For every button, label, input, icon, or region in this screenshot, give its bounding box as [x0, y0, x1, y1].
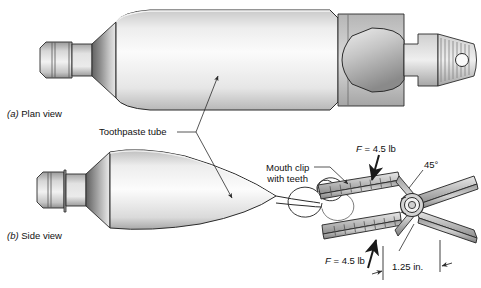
force-arrow-bottom	[368, 240, 376, 268]
label-force-top-symbol: F	[356, 143, 362, 154]
clip-lower-jaw	[322, 212, 402, 239]
label-dimension-1-25-in: 1.25 in.	[392, 261, 423, 272]
label-angle-45: 45°	[424, 159, 438, 170]
caption-side-view-marker: (b)	[7, 230, 19, 241]
plan-handle-hole	[456, 54, 469, 67]
dimension-1-25-in	[372, 240, 452, 280]
label-force-bottom: F = 4.5 lb	[325, 255, 365, 266]
side-tube-body	[110, 150, 276, 230]
side-neck	[66, 174, 86, 206]
clip-pivot-spring	[401, 194, 424, 217]
label-mouth-clip: Mouth clip with teeth	[266, 162, 309, 184]
figure-toothpaste-tube-clip: (a) Plan view (b) Side view Toothpaste t…	[0, 0, 481, 288]
caption-plan-view-marker: (a)	[7, 108, 19, 119]
caption-plan-view: (a) Plan view	[7, 108, 62, 119]
label-force-bottom-symbol: F	[325, 255, 331, 266]
figure-drawing	[0, 0, 481, 288]
label-force-bottom-value: = 4.5 lb	[333, 255, 364, 266]
plan-view-drawing	[40, 10, 477, 110]
label-toothpaste-tube: Toothpaste tube	[99, 126, 167, 137]
plan-tube-body	[116, 10, 338, 110]
plan-shoulder	[92, 22, 116, 98]
angle-leader	[409, 170, 423, 188]
plan-clip-shank	[404, 34, 438, 86]
caption-side-view-text: Side view	[21, 230, 62, 241]
caption-plan-view-text: Plan view	[21, 108, 62, 119]
plan-cap	[40, 42, 72, 78]
label-mouth-clip-line1: Mouth clip	[266, 162, 309, 173]
label-mouth-clip-line2: with teeth	[266, 173, 309, 184]
plan-clip-knob	[342, 28, 404, 92]
clip-upper-jaw	[318, 172, 401, 199]
caption-side-view: (b) Side view	[7, 230, 62, 241]
label-force-top: F = 4.5 lb	[356, 143, 396, 154]
side-shoulder	[86, 152, 110, 228]
label-force-top-value: = 4.5 lb	[364, 143, 395, 154]
side-cap	[37, 172, 64, 208]
plan-neck	[72, 44, 92, 76]
clip-rear-handles	[416, 176, 478, 243]
